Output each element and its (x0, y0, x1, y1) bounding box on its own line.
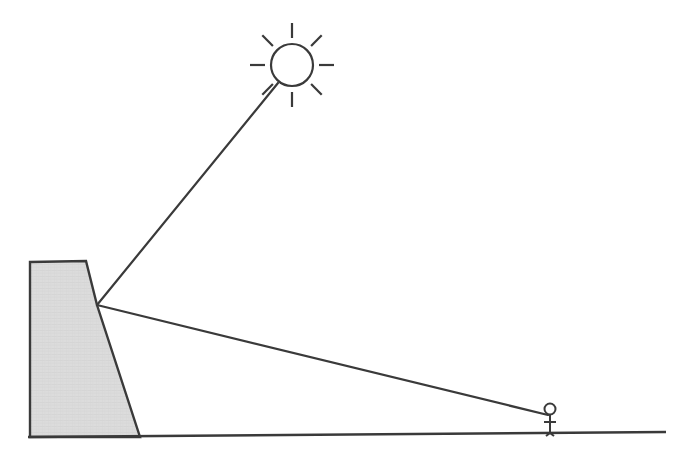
sun-icon (250, 23, 334, 107)
observer-head (545, 404, 556, 415)
sun-disc (271, 44, 313, 86)
diagram-canvas (0, 0, 682, 460)
shadow-diagram-svg (0, 0, 682, 460)
